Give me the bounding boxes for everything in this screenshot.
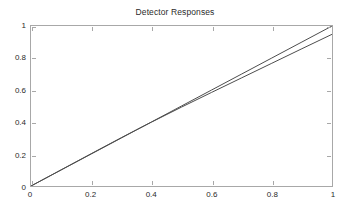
- x-tick-label-3: 0.6: [206, 190, 217, 199]
- x-tick-label-1: 0.2: [85, 190, 96, 199]
- figure-canvas: Detector Responses 00.20.40.60.81 00.20.…: [0, 0, 350, 210]
- y-tick-1: [32, 156, 36, 157]
- y-tick-right-2: [327, 123, 331, 124]
- y-tick-label-4: 0.8: [15, 53, 26, 62]
- series-lines: [31, 26, 332, 186]
- plot-area: [31, 26, 332, 186]
- page-title: Detector Responses: [0, 7, 350, 17]
- y-tick-label-5: 1: [22, 21, 26, 30]
- y-tick-right-3: [327, 91, 331, 92]
- y-tick-0: [32, 186, 36, 187]
- y-tick-5: [32, 27, 36, 28]
- x-tick-top-5: [332, 27, 333, 31]
- x-tick-label-4: 0.8: [267, 190, 278, 199]
- y-tick-label-0: 0: [22, 183, 26, 192]
- y-tick-label-1: 0.2: [15, 150, 26, 159]
- x-tick-top-4: [273, 27, 274, 31]
- x-tick-label-5: 1: [331, 190, 335, 199]
- x-tick-3: [213, 181, 214, 185]
- plot-axes-box: [30, 25, 333, 187]
- x-tick-top-2: [152, 27, 153, 31]
- x-tick-top-1: [92, 27, 93, 31]
- y-tick-right-4: [327, 58, 331, 59]
- y-tick-right-0: [327, 186, 331, 187]
- x-tick-4: [273, 181, 274, 185]
- x-tick-label-0: 0: [28, 190, 32, 199]
- y-tick-4: [32, 58, 36, 59]
- y-tick-right-1: [327, 156, 331, 157]
- x-tick-0: [32, 181, 33, 185]
- y-tick-3: [32, 91, 36, 92]
- y-tick-label-2: 0.4: [15, 118, 26, 127]
- x-tick-1: [92, 181, 93, 185]
- line-series-detector: [31, 34, 332, 186]
- x-tick-5: [332, 181, 333, 185]
- x-tick-2: [152, 181, 153, 185]
- x-tick-top-3: [213, 27, 214, 31]
- y-tick-label-3: 0.6: [15, 85, 26, 94]
- x-tick-label-2: 0.4: [146, 190, 157, 199]
- y-tick-right-5: [327, 27, 331, 28]
- y-tick-2: [32, 123, 36, 124]
